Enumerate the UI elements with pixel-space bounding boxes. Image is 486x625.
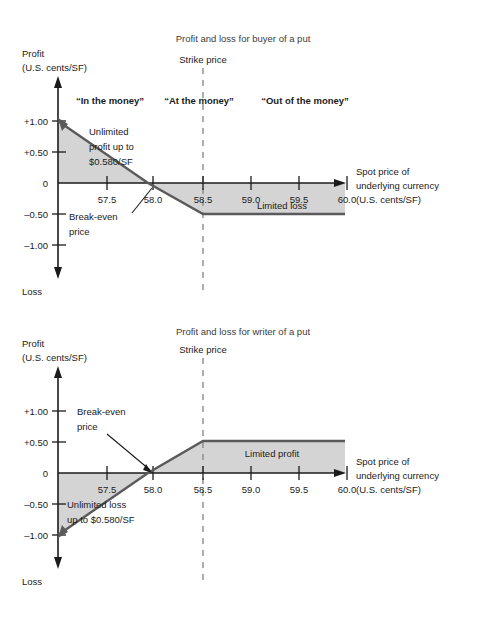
chart2-breakeven-label-line2: price: [77, 421, 98, 432]
chart1-ytick-1: +0.50: [24, 147, 48, 158]
chart1-xaxis-label-line2: underlying currency: [356, 180, 439, 191]
chart1-xaxis-label-line1: Spot price of: [356, 166, 410, 177]
chart1-ytick-2: 0: [43, 178, 48, 189]
chart1-xtick-5: 60.0: [338, 194, 357, 205]
put-option-payoff-figure: Profit and loss for buyer of a put Strik…: [0, 0, 486, 625]
chart2-strike-price-label: Strike price: [179, 344, 227, 355]
chart2-ytick-3: –0.50: [24, 499, 48, 510]
chart1-y-axis-down-arrow: [54, 267, 62, 279]
chart2-xaxis-label-line3: (U.S. cents/SF): [356, 484, 421, 495]
chart-buyer-of-a-put: Profit and loss for buyer of a put Strik…: [22, 33, 439, 297]
chart1-strike-price-label: Strike price: [179, 54, 227, 65]
chart2-ytick-2: 0: [43, 468, 48, 479]
chart2-xaxis-label-line1: Spot price of: [356, 456, 410, 467]
chart2-xtick-2: 58.5: [194, 484, 213, 495]
chart1-unlimited-profit-line2: profit up to: [89, 141, 134, 152]
chart1-ytick-0: +1.00: [24, 116, 48, 127]
chart1-yaxis-label-line1: Profit: [22, 48, 45, 59]
chart1-ytick-4: –1.00: [24, 240, 48, 251]
chart1-breakeven-label-line2: price: [69, 226, 90, 237]
chart2-unlimited-loss-line1: Unlimited loss: [67, 499, 126, 510]
chart1-limited-loss-label: Limited loss: [257, 200, 307, 211]
chart2-breakeven-label-line1: Break-even: [77, 406, 126, 417]
chart2-unlimited-loss-line2: up to $0.580/SF: [67, 514, 135, 525]
chart2-xtick-4: 59.5: [290, 484, 309, 495]
chart2-yaxis-label-line1: Profit: [22, 338, 45, 349]
chart1-ytick-3: –0.50: [24, 209, 48, 220]
chart1-xaxis-label-line3: (U.S. cents/SF): [356, 194, 421, 205]
chart2-limited-profit-label: Limited profit: [245, 448, 300, 459]
chart2-xaxis-label-line2: underlying currency: [356, 470, 439, 481]
chart2-ytick-4: –1.00: [24, 530, 48, 541]
chart2-title: Profit and loss for writer of a put: [176, 326, 310, 337]
chart1-zone-at-the-money: “At the money”: [164, 95, 234, 106]
chart2-xtick-3: 59.0: [242, 484, 261, 495]
chart1-y-axis-up-arrow: [54, 76, 62, 88]
chart2-loss-label: Loss: [22, 576, 42, 587]
chart2-yaxis-label-line2: (U.S. cents/SF): [22, 352, 87, 363]
chart2-ytick-0: +1.00: [24, 406, 48, 417]
chart2-xtick-0: 57.5: [98, 484, 117, 495]
chart2-xtick-1: 58.0: [144, 484, 163, 495]
chart1-xtick-0: 57.5: [98, 194, 117, 205]
chart2-y-axis-down-arrow: [54, 557, 62, 569]
chart2-y-axis-up-arrow: [54, 366, 62, 378]
chart1-zone-in-the-money: “In the money”: [76, 95, 144, 106]
figure-canvas: Profit and loss for buyer of a put Strik…: [0, 0, 486, 625]
chart2-xtick-5: 60.0: [338, 484, 357, 495]
chart1-unlimited-profit-line3: $0.580/SF: [89, 156, 133, 167]
chart1-title: Profit and loss for buyer of a put: [176, 33, 311, 44]
chart1-xtick-2: 58.5: [194, 194, 213, 205]
chart2-breakeven-leader-line: [107, 434, 150, 470]
chart1-yaxis-label-line2: (U.S. cents/SF): [22, 62, 87, 73]
chart1-zone-out-of-the-money: “Out of the money”: [261, 95, 349, 106]
chart1-loss-label: Loss: [22, 286, 42, 297]
chart-writer-of-a-put: Profit and loss for writer of a put Stri…: [22, 326, 439, 587]
chart1-breakeven-label-line1: Break-even: [69, 211, 118, 222]
chart2-ytick-1: +0.50: [24, 437, 48, 448]
chart1-unlimited-profit-line1: Unlimited: [89, 126, 129, 137]
